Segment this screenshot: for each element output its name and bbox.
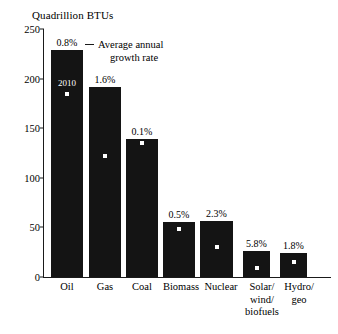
x-axis-line [43, 277, 331, 278]
x-tick-label-oil: Oil [51, 281, 83, 294]
y-tick-label: 250 [24, 24, 40, 35]
chart-title: Quadrillion BTUs [32, 9, 113, 21]
chart-container: Quadrillion BTUs 250 200 150 100 50 0 Av… [0, 0, 338, 334]
bar-group-nuclear[interactable]: 2.3% [200, 29, 233, 277]
y-tick-label: 150 [24, 123, 40, 134]
y-axis-ticks: 250 200 150 100 50 0 [0, 0, 40, 334]
bar-group-biomass[interactable]: 0.5% [163, 29, 195, 277]
y-tick-label: 50 [30, 222, 41, 233]
y-tick-label: 100 [24, 172, 40, 183]
bar-group-hydro-geo[interactable]: 1.8% [280, 29, 307, 277]
growth-rate-label-oil: 0.8% [57, 37, 78, 48]
bar-solar-wind-biofuels[interactable] [243, 251, 270, 277]
bar-hydro-geo[interactable] [280, 253, 307, 277]
growth-rate-label-biomass: 0.5% [169, 209, 190, 220]
growth-rate-label-coal: 0.1% [132, 126, 153, 137]
marker-2010-gas [103, 154, 107, 158]
marker-2010-oil [65, 92, 69, 96]
x-tick-label-hydro-geo: Hydro/ geo [278, 281, 320, 306]
growth-rate-label-gas: 1.6% [95, 74, 116, 85]
bar-group-solar-wind-biofuels[interactable]: 5.8% [243, 29, 270, 277]
bar-group-coal[interactable]: 0.1% [126, 29, 158, 277]
marker-2010-coal [140, 141, 144, 145]
plot-area: 2010 0.8% 1.6% 0.1% 0.5% 2.3% [43, 29, 331, 277]
bar-group-oil[interactable]: 2010 0.8% [51, 29, 83, 277]
growth-rate-label-nuclear: 2.3% [206, 208, 227, 219]
bar-group-gas[interactable]: 1.6% [89, 29, 121, 277]
y-tick-label: 200 [24, 73, 40, 84]
bar-coal[interactable] [126, 139, 158, 277]
growth-rate-label-hydro-geo: 1.8% [283, 240, 304, 251]
x-tick-label-gas: Gas [89, 281, 121, 294]
marker-2010-hydro-geo [292, 260, 296, 264]
marker-2010-biomass [177, 227, 181, 231]
growth-rate-label-solar-wind-biofuels: 5.8% [246, 238, 267, 249]
bar-annotation-2010: 2010 [58, 78, 76, 88]
marker-2010-solar-wind-biofuels [255, 266, 259, 270]
x-tick-label-coal: Coal [126, 281, 158, 294]
bar-gas[interactable] [89, 87, 121, 277]
marker-2010-nuclear [215, 245, 219, 249]
